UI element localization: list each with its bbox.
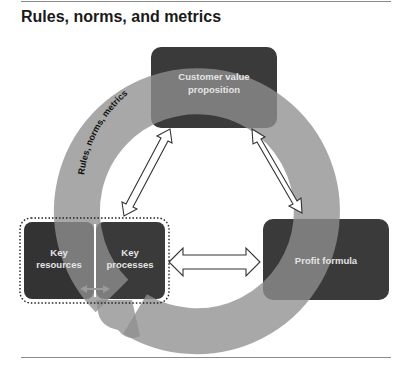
profit-formula-label: Profit formula — [295, 255, 358, 266]
customer-value-label-line2: proposition — [188, 84, 240, 95]
arrow-processes-profit — [169, 248, 260, 276]
customer-value-label-line1: Customer value — [178, 71, 249, 82]
bottom-divider — [21, 357, 391, 358]
key-resources-label-line1: Key — [50, 247, 68, 258]
ring-tail — [96, 300, 140, 338]
business-model-diagram: Rules, norms, metrics Customer value pro… — [0, 0, 409, 375]
arrow-processes-customer — [122, 129, 172, 216]
key-resources-label-line2: resources — [36, 259, 81, 270]
key-processes-label-line1: Key — [121, 247, 139, 258]
key-processes-label-line2: processes — [106, 259, 153, 270]
